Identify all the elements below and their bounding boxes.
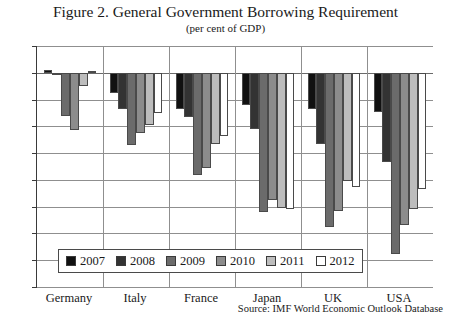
legend-label-2012: 2012 [330, 255, 355, 267]
ytick-mark--16 [32, 287, 37, 288]
bar-usa-2009 [391, 73, 400, 254]
legend-item-2012: 2012 [316, 255, 355, 267]
legend-item-2007: 2007 [66, 255, 105, 267]
page-title: Figure 2. General Government Borrowing R… [0, 3, 451, 21]
legend-item-2010: 2010 [216, 255, 255, 267]
xtick-label-germany: Germany [36, 291, 102, 306]
legend-swatch-2009 [166, 256, 176, 266]
bar-uk-2011 [343, 73, 352, 181]
bar-japan-2011 [277, 73, 286, 208]
bar-uk-2009 [325, 73, 334, 227]
bar-italy-2009 [127, 73, 136, 145]
legend-label-2010: 2010 [230, 255, 255, 267]
legend-swatch-2007 [66, 256, 76, 266]
legend-swatch-2010 [216, 256, 226, 266]
bar-france-2009 [193, 73, 202, 175]
legend-item-2008: 2008 [116, 255, 155, 267]
chart-legend: 200720082009201020112012 [58, 249, 363, 273]
bar-usa-2010 [400, 73, 409, 226]
bar-usa-2007 [374, 73, 383, 112]
bar-france-2010 [202, 73, 211, 168]
bar-germany-2007 [44, 70, 53, 73]
legend-swatch-2012 [316, 256, 326, 266]
legend-label-2007: 2007 [80, 255, 105, 267]
chart-subtitle: (per cent of GDP) [0, 21, 451, 35]
xtick-label-italy: Italy [102, 291, 168, 306]
bar-usa-2012 [418, 73, 427, 189]
legend-item-2009: 2009 [166, 255, 205, 267]
title-block: Figure 2. General Government Borrowing R… [0, 3, 451, 35]
bar-germany-2011 [79, 73, 88, 86]
bar-germany-2008 [52, 73, 61, 75]
xtick-label-france: France [168, 291, 234, 306]
legend-swatch-2008 [116, 256, 126, 266]
bar-germany-2009 [61, 73, 70, 116]
bar-japan-2012 [286, 73, 295, 210]
bar-france-2011 [211, 73, 220, 144]
bar-italy-2012 [154, 73, 163, 113]
bar-france-2007 [176, 73, 185, 109]
bar-germany-2010 [70, 73, 79, 131]
bar-uk-2007 [308, 73, 317, 109]
figure-container: Figure 2. General Government Borrowing R… [0, 0, 451, 322]
bar-uk-2008 [316, 73, 325, 144]
legend-label-2008: 2008 [130, 255, 155, 267]
bar-france-2008 [184, 73, 193, 117]
xtick-label-japan: Japan [234, 291, 300, 306]
bar-france-2012 [220, 73, 229, 136]
legend-label-2009: 2009 [180, 255, 205, 267]
bar-usa-2011 [409, 73, 418, 210]
legend-swatch-2011 [266, 256, 276, 266]
bar-uk-2010 [334, 73, 343, 211]
legend-item-2011: 2011 [266, 255, 305, 267]
bar-italy-2011 [145, 73, 154, 125]
bar-japan-2008 [250, 73, 259, 129]
bar-usa-2008 [382, 73, 391, 163]
bar-germany-2012 [88, 71, 97, 73]
bar-italy-2008 [118, 73, 127, 109]
bar-group-usa [367, 46, 433, 287]
bar-japan-2010 [268, 73, 277, 200]
xtick-label-uk: UK [300, 291, 366, 306]
bar-italy-2007 [110, 73, 119, 93]
bar-japan-2007 [242, 73, 251, 105]
bar-uk-2012 [352, 73, 361, 187]
legend-label-2011: 2011 [280, 255, 305, 267]
bar-italy-2010 [136, 73, 145, 133]
bar-japan-2009 [259, 73, 268, 212]
xtick-label-usa: USA [366, 291, 432, 306]
gridline--16 [37, 287, 433, 288]
